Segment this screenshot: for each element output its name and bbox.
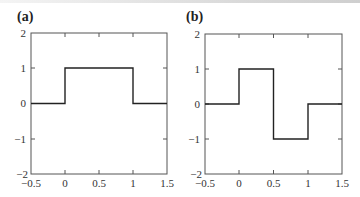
- plot-a-xtick-1: 1: [130, 177, 136, 189]
- plot-b-ytick-0: 0: [195, 98, 201, 110]
- plot-b-xtick-05: 0.5: [267, 177, 281, 189]
- plot-a-signal: [31, 68, 167, 104]
- plot-a-xtick-0: 0: [62, 177, 68, 189]
- plot-a-xtick-m05: −0.5: [21, 177, 41, 189]
- plot-a: 2 1 0 −1 −2 −0.5 0 0.5 1 1.5: [0, 0, 180, 197]
- plot-a-xtick-05: 0.5: [92, 177, 106, 189]
- plot-a-ytick-0: 0: [21, 97, 27, 109]
- plot-a-xtick-15: 1.5: [160, 177, 174, 189]
- plot-b-signal: [205, 69, 342, 139]
- plot-b-ytick-m1: −1: [188, 133, 200, 145]
- panel-b: (b) 2 1 0 −1 −2 −0.5 0 0.5 1 1.5: [180, 0, 360, 197]
- plot-b-xtick-1: 1: [305, 177, 311, 189]
- plot-b-ytick-2: 2: [195, 28, 201, 40]
- plot-a-ytick-m1: −1: [14, 133, 26, 145]
- panel-a: (a) 2 1 0 −1 −2 −0.5 0 0.5 1 1.5: [0, 0, 180, 197]
- plot-b-xtick-15: 1.5: [335, 177, 349, 189]
- plot-b: 2 1 0 −1 −2 −0.5 0 0.5 1 1.5: [180, 0, 360, 197]
- plot-b-xtick-m05: −0.5: [195, 177, 215, 189]
- plot-a-ytick-2: 2: [21, 27, 27, 39]
- plot-b-ytick-1: 1: [195, 63, 201, 75]
- plot-a-ytick-1: 1: [21, 62, 27, 74]
- plot-b-xtick-0: 0: [236, 177, 242, 189]
